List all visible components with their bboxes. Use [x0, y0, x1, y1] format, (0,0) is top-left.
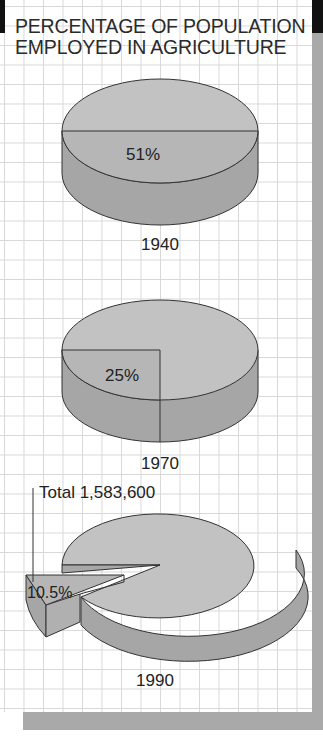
pie-1970-label: 25%: [105, 366, 139, 385]
pie-1990-year: 1990: [136, 671, 174, 690]
pie-1940: 51% 1940: [62, 79, 258, 254]
pie-1940-label: 51%: [126, 145, 160, 164]
pie-1940-year: 1940: [141, 235, 179, 254]
pie-1990-label: 10.5%: [27, 584, 72, 601]
pie-1990: Total 1,583,600 10.5% 1990: [26, 483, 308, 690]
pie-1970: 25% 1970: [62, 300, 258, 473]
pie-charts: 51% 1940 25% 1970 Total 1,583,600 10.5% …: [0, 0, 323, 743]
pie-1990-total: Total 1,583,600: [39, 483, 155, 502]
pie-1970-year: 1970: [141, 454, 179, 473]
